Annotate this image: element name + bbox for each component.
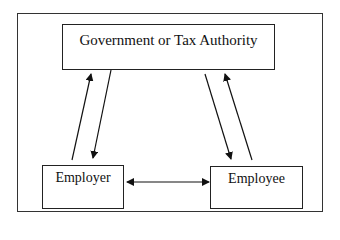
employee-node: Employee xyxy=(210,166,303,209)
employee-label: Employee xyxy=(228,171,285,186)
employer-node: Employer xyxy=(42,165,124,209)
arrow-government-to-employee xyxy=(205,74,231,159)
government-label: Government or Tax Authority xyxy=(79,32,257,48)
arrow-government-to-employer xyxy=(93,70,111,158)
arrow-employer-to-government xyxy=(72,74,91,160)
government-node: Government or Tax Authority xyxy=(62,24,275,70)
employer-label: Employer xyxy=(55,170,110,185)
arrow-employee-to-government xyxy=(225,74,252,160)
